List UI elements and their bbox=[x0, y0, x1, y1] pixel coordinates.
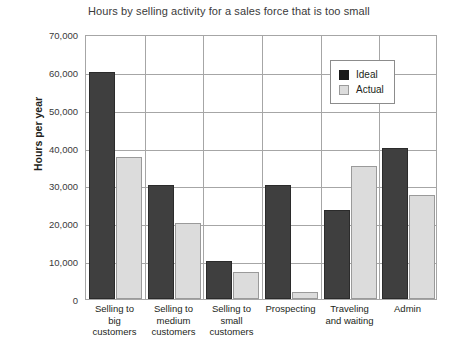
bar-ideal-3 bbox=[265, 185, 291, 299]
y-axis-tick-label: 0 bbox=[0, 295, 78, 306]
y-axis-tick-label: 70,000 bbox=[0, 30, 78, 41]
legend-swatch-ideal-icon bbox=[339, 70, 349, 80]
x-axis-tick-label-line: customers bbox=[196, 326, 267, 338]
x-axis-tick-label: Admin bbox=[372, 303, 443, 315]
bar-ideal-1 bbox=[148, 185, 174, 299]
y-axis-tick-label: 50,000 bbox=[0, 105, 78, 116]
x-axis-tick-label-line: small bbox=[196, 315, 267, 327]
y-axis-tick-label: 30,000 bbox=[0, 181, 78, 192]
bar-ideal-4 bbox=[324, 210, 350, 299]
bar-actual-2 bbox=[233, 272, 259, 299]
category-separator bbox=[321, 36, 322, 299]
chart-legend: Ideal Actual bbox=[330, 60, 395, 104]
category-separator bbox=[203, 36, 204, 299]
bar-actual-1 bbox=[175, 223, 201, 299]
bar-chart: Hours by selling activity for a sales fo… bbox=[0, 0, 458, 360]
bar-actual-5 bbox=[409, 195, 435, 299]
y-axis-tick-label: 20,000 bbox=[0, 219, 78, 230]
bar-ideal-0 bbox=[89, 72, 115, 299]
legend-label-ideal: Ideal bbox=[356, 69, 378, 80]
gridline bbox=[86, 112, 436, 113]
y-axis-tick-label: 40,000 bbox=[0, 143, 78, 154]
bar-actual-3 bbox=[292, 292, 318, 299]
legend-label-actual: Actual bbox=[356, 84, 384, 95]
category-separator bbox=[262, 36, 263, 299]
y-axis-tick-label: 60,000 bbox=[0, 67, 78, 78]
x-axis-tick-label-line: and waiting bbox=[314, 315, 385, 327]
legend-item-actual: Actual bbox=[339, 82, 384, 97]
bar-actual-4 bbox=[351, 166, 377, 299]
x-axis-tick-labels: Selling tobigcustomersSelling tomediumcu… bbox=[85, 303, 437, 358]
bar-actual-0 bbox=[116, 157, 142, 299]
y-axis-tick-label: 10,000 bbox=[0, 257, 78, 268]
x-axis-tick-label-line: Admin bbox=[372, 303, 443, 315]
legend-item-ideal: Ideal bbox=[339, 67, 384, 82]
category-separator bbox=[145, 36, 146, 299]
bar-ideal-5 bbox=[382, 148, 408, 299]
y-axis-tick-labels: 70,00060,00050,00040,00030,00020,00010,0… bbox=[0, 0, 80, 360]
bar-ideal-2 bbox=[206, 261, 232, 299]
legend-swatch-actual-icon bbox=[339, 85, 349, 95]
